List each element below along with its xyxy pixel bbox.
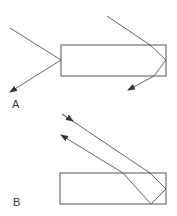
ray-a-right [107,16,166,90]
panel-a-label: A [12,98,19,110]
panel-b-label: B [13,196,20,208]
panel-a [10,16,166,92]
block-a [61,45,166,76]
panel-b [60,114,166,204]
ray-b-path [61,114,166,204]
arrow-b-incoming-icon [62,114,73,121]
optics-diagram [0,0,177,216]
block-b [60,173,166,204]
ray-a-left [10,28,61,92]
